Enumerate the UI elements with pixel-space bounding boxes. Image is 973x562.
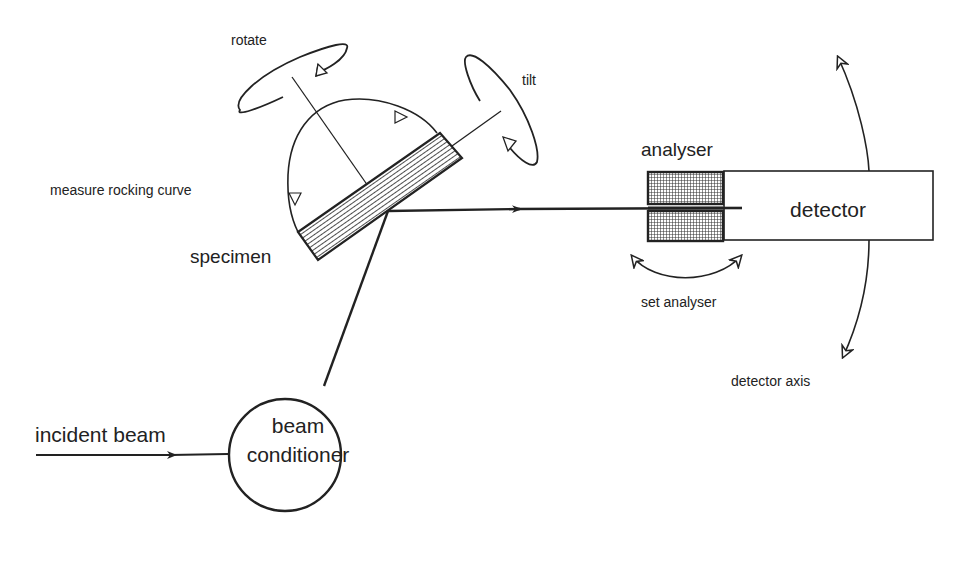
diffracted-beam: [388, 209, 520, 211]
incident-beam-label: incident beam: [35, 423, 166, 446]
set-analyser-arc: set analyser: [632, 256, 741, 310]
tilt-motion: tilt: [452, 55, 538, 165]
detector: detector: [724, 171, 933, 240]
beam-conditioner: beam conditioner: [229, 399, 349, 511]
rotate-motion: rotate: [231, 32, 368, 186]
set-analyser-label: set analyser: [641, 294, 717, 310]
rocking-arrow-head-left: [289, 193, 301, 205]
specimen: specimen: [190, 133, 462, 267]
measure-rocking-curve-label: measure rocking curve: [50, 182, 192, 198]
rocking-arrow-head-top: [395, 111, 407, 123]
tilt-label: tilt: [522, 72, 536, 88]
tilt-arrow-icon: [503, 137, 516, 151]
analyser-label: analyser: [641, 139, 713, 160]
beam-conditioner-label-1: beam: [272, 414, 325, 437]
specimen-label: specimen: [190, 246, 271, 267]
detector-label: detector: [790, 198, 866, 221]
rotate-label: rotate: [231, 32, 267, 48]
incident-beam: incident beam: [35, 423, 228, 455]
diagram-canvas: incident beam beam conditioner measure r…: [0, 0, 973, 562]
detector-axis-label: detector axis: [731, 373, 810, 389]
analyser: analyser: [641, 139, 723, 241]
beam-conditioner-label-2: conditioner: [247, 443, 350, 466]
